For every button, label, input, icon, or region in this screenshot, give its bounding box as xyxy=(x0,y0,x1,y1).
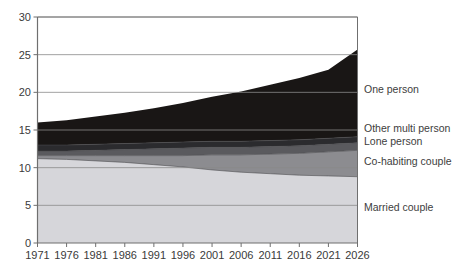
x-tick-label-1991: 1991 xyxy=(142,249,166,261)
y-tick-label-25: 25 xyxy=(19,49,31,61)
x-tick-label-1986: 1986 xyxy=(113,249,137,261)
x-tick-label-1981: 1981 xyxy=(83,249,107,261)
x-tick-label-2011: 2011 xyxy=(258,249,282,261)
y-tick-label-30: 30 xyxy=(19,11,31,23)
y-tick-label-20: 20 xyxy=(19,86,31,98)
y-tick-label-5: 5 xyxy=(25,199,31,211)
x-tick-label-2006: 2006 xyxy=(229,249,253,261)
y-tick-label-0: 0 xyxy=(25,237,31,249)
legend-label-one-person: One person xyxy=(364,83,419,95)
x-tick-label-2016: 2016 xyxy=(287,249,311,261)
x-tick-label-2001: 2001 xyxy=(200,249,224,261)
legend-label-married-couple: Married couple xyxy=(364,201,434,213)
x-tick-label-2026: 2026 xyxy=(345,249,369,261)
chart-canvas: 30 25 20 15 10 5 0 197119761981198619911… xyxy=(0,0,465,275)
legend-label-lone-person: Lone person xyxy=(364,135,423,147)
y-tick-label-10: 10 xyxy=(19,162,31,174)
stacked-area-chart: 30 25 20 15 10 5 0 197119761981198619911… xyxy=(0,0,465,275)
legend-label-cohabiting-couple: Co-habiting couple xyxy=(364,155,452,167)
x-tick-label-1971: 1971 xyxy=(25,249,49,261)
y-tick-label-15: 15 xyxy=(19,124,31,136)
x-tick-label-1996: 1996 xyxy=(171,249,195,261)
legend-label-other-multi-person: Other multi person xyxy=(364,122,451,134)
x-tick-label-1976: 1976 xyxy=(54,249,78,261)
x-tick-label-2021: 2021 xyxy=(316,249,340,261)
